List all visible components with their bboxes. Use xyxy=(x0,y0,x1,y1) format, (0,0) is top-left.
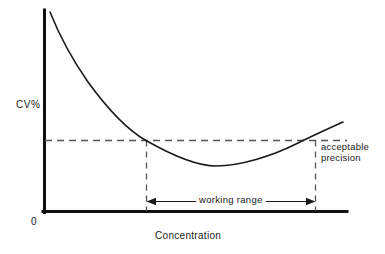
working-range-label: working range xyxy=(199,194,263,205)
chart-figure: CV% 0 Concentration working range accept… xyxy=(0,0,385,254)
axes xyxy=(43,10,347,213)
x-axis-label: Concentration xyxy=(155,230,221,241)
origin-label: 0 xyxy=(31,216,37,227)
acceptable-precision-label-line1: acceptable xyxy=(321,141,369,152)
acceptable-precision-label: acceptable precision xyxy=(321,141,369,163)
y-axis-label: CV% xyxy=(16,99,41,110)
acceptable-precision-label-line2: precision xyxy=(321,152,369,163)
arrow-head-left xyxy=(147,198,157,205)
precision-profile-chart xyxy=(0,0,385,254)
cv-percent-curve xyxy=(50,12,343,166)
arrow-head-right xyxy=(306,198,316,205)
